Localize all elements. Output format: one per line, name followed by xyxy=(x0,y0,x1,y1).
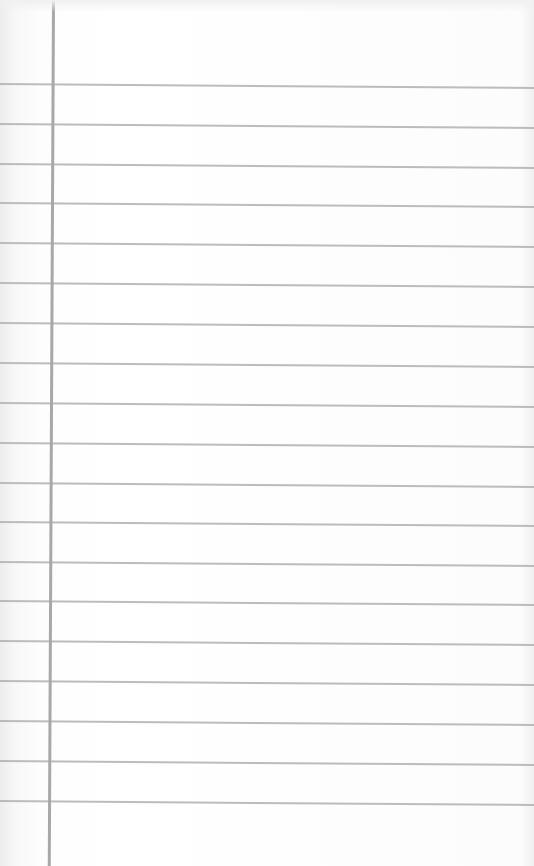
rule-line xyxy=(0,482,534,488)
rule-line xyxy=(0,800,534,806)
rule-line xyxy=(0,442,534,448)
rule-line xyxy=(0,402,534,408)
rule-line xyxy=(0,600,534,606)
rule-line xyxy=(0,720,534,726)
rule-line xyxy=(0,322,534,328)
lined-paper xyxy=(0,0,534,866)
rule-line xyxy=(0,282,534,288)
rule-line xyxy=(0,202,534,208)
rule-line xyxy=(0,680,534,686)
rule-line xyxy=(0,163,534,169)
rule-line xyxy=(0,242,534,248)
rule-line xyxy=(0,83,534,89)
rule-line xyxy=(0,362,534,368)
rule-line xyxy=(0,561,534,567)
rule-line xyxy=(0,760,534,766)
rule-line xyxy=(0,521,534,527)
rule-line xyxy=(0,123,534,129)
rule-line xyxy=(0,640,534,646)
margin-line xyxy=(48,0,55,866)
